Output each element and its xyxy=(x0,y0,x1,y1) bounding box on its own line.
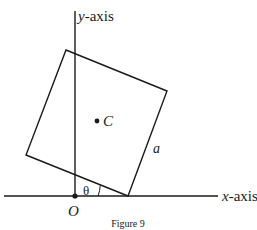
figure-caption: Figure 9 xyxy=(111,218,145,229)
angle-arc xyxy=(98,185,100,196)
angle-label: θ xyxy=(83,183,89,198)
center-dot xyxy=(95,119,100,124)
origin-dot xyxy=(72,193,77,198)
center-label: C xyxy=(103,113,114,129)
side-label: a xyxy=(153,141,160,156)
y-axis-label: y-axis xyxy=(76,8,114,24)
figure-diagram: y-axis x-axis O C a θ Figure 9 xyxy=(0,0,257,230)
x-axis-label: x-axis xyxy=(221,188,257,204)
origin-label: O xyxy=(68,203,79,219)
